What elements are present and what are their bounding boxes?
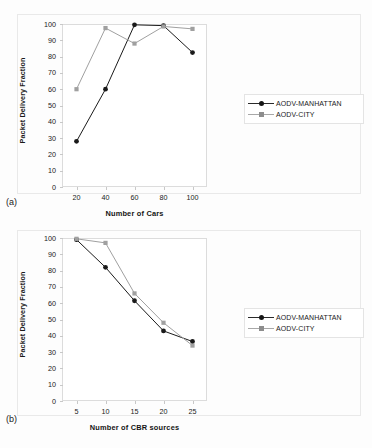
series-1-point [161,24,165,28]
series-0-point [103,87,108,92]
series-1-point [190,343,194,347]
series-1-point [74,87,78,91]
series-1-point [132,291,136,295]
figure-container: Packet Delivery Fraction Number of Cars … [0,0,372,448]
series-0-point [132,22,137,27]
series-1-point [103,241,107,245]
series-0-point [103,265,108,270]
series-line-0 [77,240,193,342]
series-0-point [190,50,195,55]
series-1-point [132,41,136,45]
series-1-point [103,26,107,30]
series-0-point [74,139,79,144]
chart-panel-b: Packet Delivery Fraction Number of CBR s… [0,224,372,448]
chart-panel-a: Packet Delivery Fraction Number of Cars … [0,0,372,224]
series-1-point [74,237,78,241]
series-layer [0,0,372,224]
series-1-point [190,27,194,31]
series-0-point [132,298,137,303]
series-1-point [161,321,165,325]
series-0-point [190,339,195,344]
series-0-point [161,329,166,334]
series-layer [0,224,372,448]
